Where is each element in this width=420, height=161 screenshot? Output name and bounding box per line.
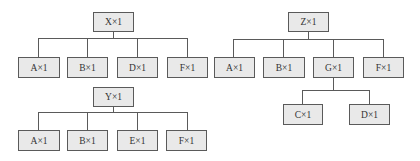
node-x-child-d: D×1 — [117, 57, 158, 78]
connector — [187, 38, 188, 57]
connector — [233, 39, 234, 57]
connector — [369, 90, 370, 104]
connector — [137, 112, 138, 130]
connector — [308, 32, 309, 39]
connector — [38, 38, 188, 39]
connector — [38, 112, 39, 130]
connector — [137, 38, 138, 57]
node-y-child-f: F×1 — [166, 130, 207, 151]
node-x-child-f: F×1 — [167, 57, 208, 78]
node-z-child-b: B×1 — [263, 57, 305, 78]
node-z-child-f: F×1 — [363, 57, 404, 78]
connector — [333, 39, 334, 57]
node-g-child-d: D×1 — [349, 104, 390, 125]
node-x-child-a: A×1 — [18, 57, 60, 78]
node-g-child-c: C×1 — [283, 104, 323, 125]
node-z-child-a: A×1 — [214, 57, 255, 78]
node-y-child-e: E×1 — [117, 130, 158, 151]
connector — [187, 112, 188, 130]
node-x-root: X×1 — [93, 12, 134, 32]
connector — [302, 90, 370, 91]
connector — [87, 112, 88, 130]
connector — [87, 38, 88, 57]
node-x-child-b: B×1 — [67, 57, 108, 78]
connector — [38, 38, 39, 57]
node-y-child-b: B×1 — [67, 130, 108, 151]
connector — [283, 39, 284, 57]
node-z-child-g: G×1 — [313, 57, 354, 78]
connector — [233, 39, 384, 40]
node-y-root: Y×1 — [93, 87, 134, 107]
node-z-root: Z×1 — [288, 12, 329, 32]
connector — [38, 112, 188, 113]
connector — [302, 90, 303, 104]
node-y-child-a: A×1 — [18, 130, 60, 151]
connector — [383, 39, 384, 57]
